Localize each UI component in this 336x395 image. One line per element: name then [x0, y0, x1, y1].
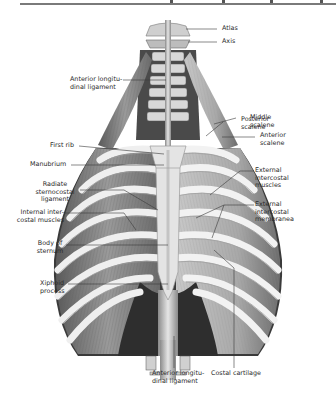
label-anterior-longitudinal-ligament-top: Anterior longitu- dinal ligament	[70, 76, 122, 91]
label-external-intercostal-muscles: External intercostal muscles	[255, 167, 289, 190]
label-manubrium: Manubrium	[30, 161, 66, 169]
label-first-rib: First rib	[50, 142, 74, 150]
label-internal-intercostal-muscles: Internal inter- costal muscles	[14, 209, 64, 224]
label-external-intercostal-membrane: External intercostal membranea	[255, 201, 294, 224]
label-radiate-sternocostal-ligament: Radiate sternocostal ligament	[32, 181, 78, 204]
label-axis: Axis	[222, 38, 235, 46]
label-middle-scalene-visible: Middle scalene	[250, 114, 274, 129]
label-body-of-sternum: Body of sternum	[34, 240, 66, 255]
label-atlas: Atlas	[222, 25, 238, 33]
label-costal-cartilage: Costal cartilage	[211, 370, 261, 378]
label-anterior-scalene: Anterior scalene	[260, 132, 286, 147]
label-anterior-longitudinal-ligament-bottom: Anterior longitu- dinal ligament	[152, 370, 204, 385]
rib-cage	[54, 146, 282, 380]
label-xiphoid-process: Xiphoid process	[40, 280, 65, 295]
cervical-spine	[136, 20, 200, 150]
